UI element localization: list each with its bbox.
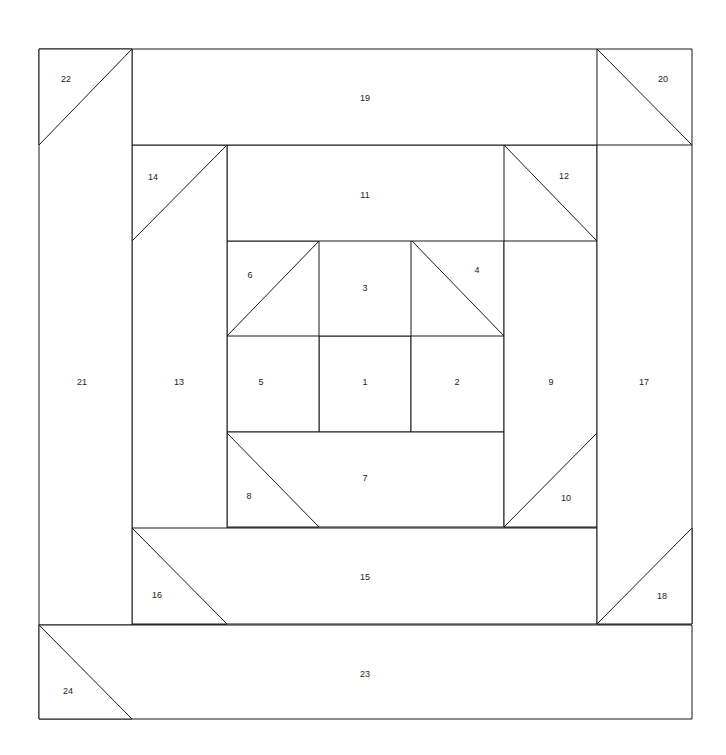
quilt-piece-19 [132,49,597,145]
quilt-piece-11 [227,145,504,241]
quilt-piece-6 [227,241,319,336]
quilt-piece-4 [411,240,504,336]
quilt-piece-3 [319,240,411,336]
quilt-piece-5 [227,336,319,432]
quilt-piece-12 [504,145,597,241]
quilt-piece-21 [39,49,132,625]
quilt-piece-1 [319,336,411,432]
quilt-piece-23 [39,625,692,719]
pieces-layer [39,49,692,719]
quilt-piece-20 [597,49,692,145]
quilt-block-diagram: 123456789101112131415161718192021222324 [0,0,726,755]
quilt-block-canvas: 123456789101112131415161718192021222324 [0,0,726,755]
quilt-piece-2 [411,336,504,432]
